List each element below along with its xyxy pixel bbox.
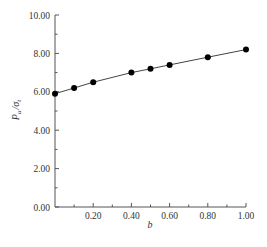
svg-text:Pu/σt: Pu/σt	[10, 99, 23, 121]
x-tick-label: 0.80	[199, 211, 216, 221]
data-point-marker	[71, 85, 77, 91]
y-axis: 0.002.004.006.008.0010.00	[29, 11, 59, 213]
y-title-sub1: u	[15, 110, 23, 114]
y-title-sub2: t	[15, 99, 23, 102]
y-tick-label: 6.00	[33, 87, 50, 97]
y-title-main: P	[10, 114, 21, 121]
x-tick-label: 0.40	[123, 211, 140, 221]
data-point-marker	[148, 66, 154, 72]
y-tick-label: 2.00	[33, 164, 50, 174]
x-axis: 0.200.400.600.801.00	[55, 203, 255, 221]
x-tick-label: 0.20	[85, 211, 102, 221]
x-axis-title: b	[148, 219, 153, 230]
data-series	[52, 47, 249, 97]
data-point-marker	[167, 62, 173, 68]
data-point-marker	[90, 79, 96, 85]
data-point-marker	[128, 70, 134, 76]
y-tick-label: 8.00	[33, 49, 50, 59]
data-point-marker	[243, 47, 249, 53]
data-point-marker	[52, 91, 58, 97]
line-chart: 0.002.004.006.008.0010.00 0.200.400.600.…	[0, 0, 267, 247]
y-axis-title: Pu/σt	[10, 99, 23, 121]
data-point-marker	[205, 54, 211, 60]
y-tick-label: 10.00	[29, 11, 51, 21]
y-tick-label: 4.00	[33, 126, 50, 136]
x-tick-label: 1.00	[238, 211, 255, 221]
x-tick-label: 0.60	[161, 211, 178, 221]
y-tick-label: 0.00	[33, 203, 50, 213]
